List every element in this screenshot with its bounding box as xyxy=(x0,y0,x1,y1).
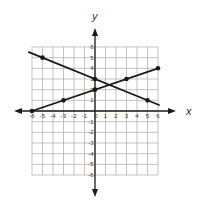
x-axis-right-arrow-icon xyxy=(168,108,176,114)
x-tick-label: 6 xyxy=(156,113,160,119)
data-point xyxy=(156,66,161,71)
x-tick-label: 4 xyxy=(135,113,139,119)
x-tick-label: -2 xyxy=(71,113,77,119)
x-tick-label: 5 xyxy=(146,113,150,119)
y-axis-label: y xyxy=(91,10,99,22)
y-tick-label: -6 xyxy=(88,172,94,178)
x-tick-label: 1 xyxy=(104,113,108,119)
y-tick-label: -1 xyxy=(88,119,94,125)
data-point xyxy=(40,55,45,60)
x-tick-label: -4 xyxy=(50,113,56,119)
y-axis-down-arrow-icon xyxy=(92,189,98,197)
coordinate-plane: -6-5-4-3-2-10123456-6-5-4-3-2-1123456 x … xyxy=(0,0,203,209)
data-point xyxy=(145,98,150,103)
x-tick-label: -5 xyxy=(40,113,46,119)
y-axis-up-arrow-icon xyxy=(92,28,98,36)
y-tick-label: -2 xyxy=(88,129,94,135)
data-point xyxy=(93,77,98,82)
x-axis-left-arrow-icon xyxy=(14,108,22,114)
y-tick-label: -4 xyxy=(88,151,94,157)
x-axis-label: x xyxy=(185,105,192,117)
x-tick-label: -3 xyxy=(61,113,67,119)
data-point xyxy=(61,98,66,103)
x-tick-label: 0 xyxy=(94,113,98,119)
x-tick-label: 2 xyxy=(114,113,118,119)
plotted-lines xyxy=(29,52,159,111)
data-point xyxy=(93,87,98,92)
y-tick-label: -5 xyxy=(88,161,94,167)
x-tick-label: -1 xyxy=(82,113,88,119)
data-point xyxy=(124,77,129,82)
y-tick-label: -3 xyxy=(88,140,94,146)
data-point xyxy=(30,109,35,114)
x-tick-label: -6 xyxy=(29,113,35,119)
x-tick-label: 3 xyxy=(125,113,129,119)
